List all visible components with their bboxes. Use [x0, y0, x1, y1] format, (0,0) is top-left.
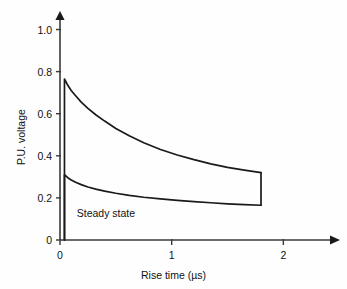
- y-tick-label: 0.6: [37, 109, 52, 120]
- x-axis-title: Rise time (µs): [0, 270, 347, 281]
- y-tick-label: 0.8: [37, 67, 52, 78]
- chart-annotation: Steady state: [77, 208, 135, 219]
- chart-figure: 00.20.40.60.81.0 012 Steady state P.U. v…: [0, 0, 347, 289]
- y-tick-label: 0.2: [37, 193, 52, 204]
- y-axis-title: P.U. voltage: [16, 109, 27, 165]
- y-tick-label: 0: [46, 235, 52, 246]
- plot-canvas: [0, 0, 347, 289]
- x-tick-label: 1: [152, 250, 192, 261]
- y-tick-label: 0.4: [37, 151, 52, 162]
- y-axis-arrowhead: [55, 11, 64, 20]
- x-axis-arrowhead: [330, 235, 340, 244]
- y-tick-label: 1.0: [37, 25, 52, 36]
- x-tick-label: 0: [40, 250, 80, 261]
- x-tick-label: 2: [263, 250, 303, 261]
